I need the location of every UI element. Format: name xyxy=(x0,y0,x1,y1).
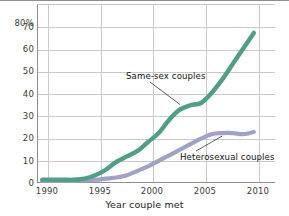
y-axis-tick-labels: 80% 70 60 50 40 30 20 10 0 xyxy=(0,0,34,216)
x-tick-label-1990: 1990 xyxy=(36,186,58,196)
y-tick-label-50: 50 xyxy=(0,66,34,76)
x-tick-label-1995: 1995 xyxy=(89,186,111,196)
y-tick-label-40: 40 xyxy=(0,89,34,99)
x-axis-title: Year couple met xyxy=(0,199,289,210)
gridline-x-1990 xyxy=(48,5,49,182)
annotation-same-sex-couples: Same-sex couples xyxy=(126,71,206,81)
y-tick-label-0: 0 xyxy=(0,178,34,188)
annotation-heterosexual-couples: Heterosexual couples xyxy=(180,152,275,162)
x-tick-label-2000: 2000 xyxy=(141,186,163,196)
gridline-y-30 xyxy=(38,116,275,117)
y-tick-label-70: 70 xyxy=(0,22,34,32)
gridline-y-70 xyxy=(38,27,275,28)
y-tick-label-10: 10 xyxy=(0,156,34,166)
y-tick-label-20: 20 xyxy=(0,133,34,143)
x-axis-line xyxy=(37,182,275,183)
top-divider-rule xyxy=(0,0,289,1)
gridline-y-60 xyxy=(38,50,275,51)
y-tick-label-60: 60 xyxy=(0,44,34,54)
chart-root: 80% 70 60 50 40 30 20 10 0 1990 1995 200… xyxy=(0,0,289,216)
gridline-y-40 xyxy=(38,94,275,95)
gridline-y-20 xyxy=(38,139,275,140)
gridline-x-2000 xyxy=(153,5,154,182)
gridline-x-1995 xyxy=(101,5,102,182)
x-tick-label-2005: 2005 xyxy=(194,186,216,196)
x-tick-label-2010: 2010 xyxy=(247,186,269,196)
y-tick-label-30: 30 xyxy=(0,111,34,121)
